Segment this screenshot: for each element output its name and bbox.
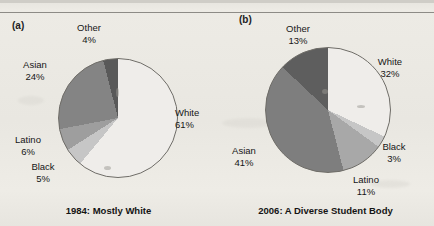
slice-label-black-value: 3% xyxy=(372,153,416,165)
slice-label-white-value: 61% xyxy=(175,119,217,131)
scan-speck xyxy=(104,166,111,170)
pie-slices-1984 xyxy=(58,58,178,178)
scan-speck xyxy=(357,105,365,108)
slice-label-other-value: 4% xyxy=(65,34,113,46)
scan-speck xyxy=(322,89,328,94)
panel-letter-a: (a) xyxy=(12,20,24,31)
slice-label-other-name: Other xyxy=(274,23,322,35)
slice-label-white-name: White xyxy=(175,107,217,119)
pie-graphic-1984 xyxy=(58,58,178,178)
slice-label-other-value: 13% xyxy=(274,35,322,47)
chart-caption-1984: 1984: Mostly White xyxy=(0,205,217,216)
slice-label-black: Black 5% xyxy=(22,161,64,184)
slice-label-latino-name: Latino xyxy=(6,134,50,146)
slice-label-black: Black 3% xyxy=(372,141,416,164)
slice-label-latino-value: 6% xyxy=(6,146,50,158)
slice-label-latino-name: Latino xyxy=(343,174,389,186)
slice-label-latino: Latino 6% xyxy=(6,134,50,157)
slice-label-asian-name: Asian xyxy=(221,145,267,157)
slice-label-other: Other 4% xyxy=(65,22,113,45)
slice-label-black-value: 5% xyxy=(22,173,64,185)
slice-label-asian-value: 24% xyxy=(13,71,57,83)
slice-label-asian: Asian 41% xyxy=(221,145,267,168)
scan-speck xyxy=(116,88,119,97)
slice-label-latino-value: 11% xyxy=(343,186,389,198)
slice-label-white: White 61% xyxy=(175,107,217,130)
chart-caption-2006: 2006: A Diverse Student Body xyxy=(217,205,434,216)
slice-label-black-name: Black xyxy=(22,161,64,173)
pie-chart-1984: (a) Other 4% Asian 24% Latino 6% Black 5… xyxy=(0,0,217,226)
slice-label-other: Other 13% xyxy=(274,23,322,46)
slice-label-black-name: Black xyxy=(372,141,416,153)
slice-label-white-name: White xyxy=(367,56,413,68)
slice-label-other-name: Other xyxy=(65,22,113,34)
slice-label-white: White 32% xyxy=(367,56,413,79)
slice-label-asian-name: Asian xyxy=(13,59,57,71)
panel-letter-b: (b) xyxy=(239,14,252,25)
slice-label-asian: Asian 24% xyxy=(13,59,57,82)
slice-label-white-value: 32% xyxy=(367,68,413,80)
pie-chart-2006: (b) Other 13% White 32% Black 3% Latino … xyxy=(217,0,434,226)
slice-label-asian-value: 41% xyxy=(221,157,267,169)
slice-label-latino: Latino 11% xyxy=(343,174,389,197)
